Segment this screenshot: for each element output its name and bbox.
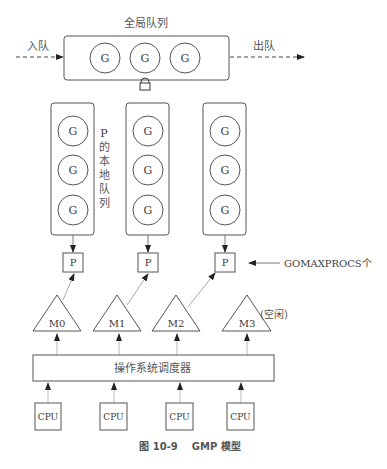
svg-text:P: P — [100, 127, 108, 140]
svg-text:G: G — [181, 52, 190, 65]
gmp-diagram: 全局队列 G G G 入队 出队 G G — [0, 0, 387, 469]
local-goroutine: G — [221, 204, 230, 217]
local-goroutine: G — [69, 125, 78, 138]
os-scheduler: 操作系统调度器 — [33, 355, 274, 381]
enqueue-arrow: 入队 — [16, 39, 63, 57]
svg-text:G: G — [101, 52, 110, 65]
machine-m: M0 — [33, 295, 81, 331]
local-goroutine: G — [69, 164, 78, 177]
processor-p: P — [138, 253, 158, 272]
svg-text:P: P — [222, 257, 229, 268]
svg-text:M1: M1 — [109, 318, 126, 329]
local-goroutine: G — [221, 125, 230, 138]
local-goroutine: G — [144, 125, 153, 138]
svg-text:队: 队 — [99, 182, 110, 196]
svg-text:M2: M2 — [168, 318, 185, 329]
figure-caption: 图 10-9 GMP 模型 — [139, 440, 240, 452]
enqueue-label: 入队 — [27, 39, 49, 53]
svg-text:地: 地 — [99, 169, 110, 182]
machine-m: M1 — [93, 295, 141, 331]
svg-text:列: 列 — [99, 196, 110, 210]
svg-text:本: 本 — [99, 154, 110, 168]
dequeue-arrow: 出队 — [230, 39, 304, 57]
svg-text:操作系统调度器: 操作系统调度器 — [114, 361, 191, 375]
m-to-p-arrow — [63, 274, 74, 300]
processor-p: P — [63, 253, 83, 272]
global-goroutine: G — [130, 43, 160, 73]
svg-text:CPU: CPU — [38, 412, 59, 422]
m-to-p-arrow — [127, 274, 148, 305]
cpu: CPU — [35, 403, 61, 430]
gomaxprocs-annotation: GOMAXPROCS个 — [249, 258, 372, 269]
cpu: CPU — [227, 403, 254, 430]
local-goroutine: G — [144, 164, 153, 177]
svg-text:G: G — [141, 52, 150, 65]
global-queue: 全局队列 G G G — [64, 16, 229, 90]
local-goroutine: G — [144, 204, 153, 217]
idle-label: (空闲) — [260, 308, 288, 320]
cpu: CPU — [100, 403, 127, 430]
local-queue: G G G — [126, 103, 169, 235]
svg-text:CPU: CPU — [169, 412, 190, 422]
local-queue: G G G — [51, 103, 94, 235]
local-goroutine: G — [221, 164, 230, 177]
svg-text:的: 的 — [99, 140, 110, 154]
local-goroutine: G — [69, 204, 78, 217]
processor-p: P — [215, 253, 235, 272]
svg-text:P: P — [145, 257, 152, 268]
global-goroutine: G — [170, 43, 200, 73]
svg-text:GOMAXPROCS个: GOMAXPROCS个 — [284, 258, 372, 269]
global-goroutine: G — [90, 43, 120, 73]
svg-text:M3: M3 — [239, 318, 256, 329]
local-queue: G G G — [203, 103, 246, 235]
svg-text:M0: M0 — [49, 318, 66, 329]
dequeue-label: 出队 — [253, 39, 275, 53]
svg-text:CPU: CPU — [230, 412, 251, 422]
svg-text:CPU: CPU — [103, 412, 124, 422]
global-queue-title: 全局队列 — [124, 16, 168, 30]
svg-text:P: P — [70, 257, 77, 268]
cpu: CPU — [166, 403, 193, 430]
local-queue-label: P 的 本 地 队 列 — [99, 127, 110, 210]
m-to-p-arrow — [188, 273, 215, 307]
